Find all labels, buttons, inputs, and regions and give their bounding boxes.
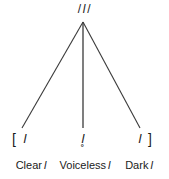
caption-clear-l-segment: l xyxy=(42,159,46,171)
branch-line-left xyxy=(22,22,83,128)
allophone-symbol-clear-l: l xyxy=(5,128,45,150)
allophone-tree-diagram: /l/ [ l l̥ ɫ ] Clearl Voicelessl Darkl xyxy=(0,0,169,179)
caption-clear-l-text: Clear xyxy=(16,159,42,171)
allophone-caption-row: Clearl Voicelessl Darkl xyxy=(0,156,169,174)
caption-dark-l-segment: l xyxy=(148,159,152,171)
caption-voiceless-l-text: Voiceless xyxy=(60,159,106,171)
allophone-symbol-dark-l: ɫ xyxy=(120,128,160,150)
phoneme-close-slash: / xyxy=(87,2,91,16)
phoneme-label: /l/ xyxy=(0,2,169,16)
allophone-symbol-row: [ l l̥ ɫ ] xyxy=(0,128,169,150)
caption-dark-l-text: Dark xyxy=(125,159,148,171)
tree-branches xyxy=(0,0,169,179)
bracket-close: ] xyxy=(148,128,152,150)
caption-dark-l: Darkl xyxy=(106,156,169,174)
allophone-symbol-voiceless-l: l̥ xyxy=(63,128,103,150)
branch-line-right xyxy=(83,22,140,128)
